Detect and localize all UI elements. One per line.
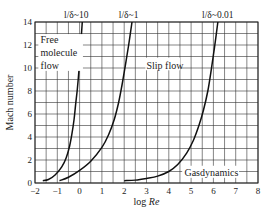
annotation-label: molecule <box>41 47 78 58</box>
x-tick-label: 7 <box>233 186 238 196</box>
x-tick-label: 8 <box>256 186 261 196</box>
y-tick-label: 4 <box>28 132 33 142</box>
x-tick-label: 2 <box>122 186 127 196</box>
y-tick-label: 12 <box>23 40 32 50</box>
x-tick-label: 3 <box>144 186 149 196</box>
y-axis-label: Mach number <box>4 74 15 130</box>
x-tick-label: 0 <box>77 186 82 196</box>
y-tick-label: 2 <box>28 155 33 165</box>
x-tick-label: 6 <box>211 186 216 196</box>
y-axis-ticks: 02468101214 <box>23 17 33 188</box>
annotation-label: l/δ~1 <box>119 10 139 20</box>
annotation-label: Gasdynamics <box>184 167 238 178</box>
y-tick-label: 6 <box>28 109 33 119</box>
y-tick-label: 14 <box>23 17 33 27</box>
x-axis-label: log Re <box>134 196 160 207</box>
y-tick-label: 0 <box>28 178 33 188</box>
chart: −2−1012345678 02468101214 l/δ~10l/δ~1l/δ… <box>0 0 276 212</box>
x-axis-ticks: −2−1012345678 <box>30 186 261 196</box>
y-tick-label: 10 <box>23 63 33 73</box>
x-tick-label: 4 <box>167 186 172 196</box>
annotation-label: flow <box>41 60 60 71</box>
annotation-label: l/δ~0.01 <box>202 10 234 20</box>
x-tick-label: 5 <box>189 186 194 196</box>
series-line-3 <box>124 22 218 181</box>
y-tick-label: 8 <box>28 86 33 96</box>
annotation-label: l/δ~10 <box>64 10 89 20</box>
annotation-label: Free <box>41 34 59 45</box>
annotation-label: Slip flow <box>147 60 185 71</box>
x-tick-label: 1 <box>100 186 105 196</box>
x-tick-label: −1 <box>53 186 63 196</box>
